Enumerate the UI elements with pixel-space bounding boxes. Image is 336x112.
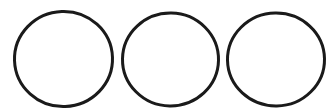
drawing-canvas	[0, 0, 336, 112]
three-circles-figure	[0, 0, 336, 112]
canvas-background	[0, 0, 336, 112]
